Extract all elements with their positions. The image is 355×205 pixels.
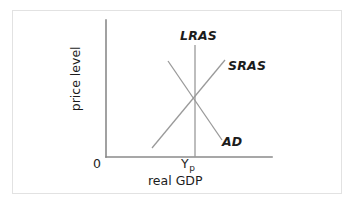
sras-curve-label: SRAS xyxy=(228,60,266,73)
potential-output-tick-label: Yp xyxy=(181,158,194,171)
x-axis-label: real GDP xyxy=(148,175,203,188)
origin-label: 0 xyxy=(93,158,101,171)
ad-curve-label: AD xyxy=(222,136,242,149)
lras-curve-label: LRAS xyxy=(180,30,217,43)
sras-curve-line xyxy=(152,60,225,148)
figure-root: LRAS SRAS AD 0 Yp real GDP price level xyxy=(0,0,355,205)
potential-output-subscript: p xyxy=(189,163,195,173)
y-axis-label: price level xyxy=(70,51,83,111)
potential-output-symbol: Y xyxy=(181,156,189,171)
